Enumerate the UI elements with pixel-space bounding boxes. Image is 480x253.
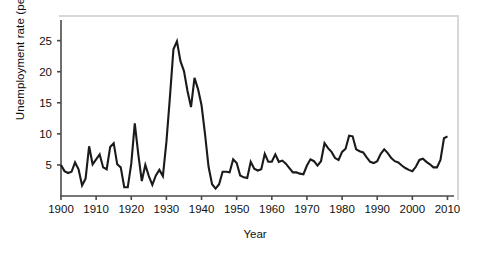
x-tick-label: 2010 [435, 203, 461, 215]
y-tick-label: 15 [0, 97, 52, 109]
x-tick-label: 1930 [154, 203, 180, 215]
y-tick-label: 5 [0, 159, 52, 171]
plot-area [0, 0, 480, 253]
x-tick-label: 1990 [364, 203, 390, 215]
plot-frame [59, 16, 458, 200]
x-tick-label: 1970 [294, 203, 320, 215]
x-tick-label: 1940 [189, 203, 215, 215]
x-tick-label: 1910 [83, 203, 109, 215]
x-tick-label: 1920 [118, 203, 144, 215]
y-tick-label: 25 [0, 35, 52, 47]
x-tick-label: 1960 [259, 203, 285, 215]
unemployment-rate-chart: Unemployment rate (percent) Year 5101520… [0, 0, 480, 253]
y-tick-label: 10 [0, 128, 52, 140]
data-line-unemployment-rate [61, 41, 447, 188]
x-tick-label: 1980 [329, 203, 355, 215]
x-tick-label: 2000 [400, 203, 426, 215]
x-tick-label: 1950 [224, 203, 250, 215]
y-tick-label: 20 [0, 66, 52, 78]
x-tick-label: 1900 [48, 203, 74, 215]
